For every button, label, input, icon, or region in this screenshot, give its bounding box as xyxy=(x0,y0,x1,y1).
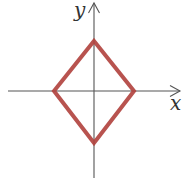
y-axis-label: y xyxy=(73,0,86,22)
x-axis-label: x xyxy=(170,91,181,115)
diamond-diagram: y x xyxy=(0,0,195,184)
